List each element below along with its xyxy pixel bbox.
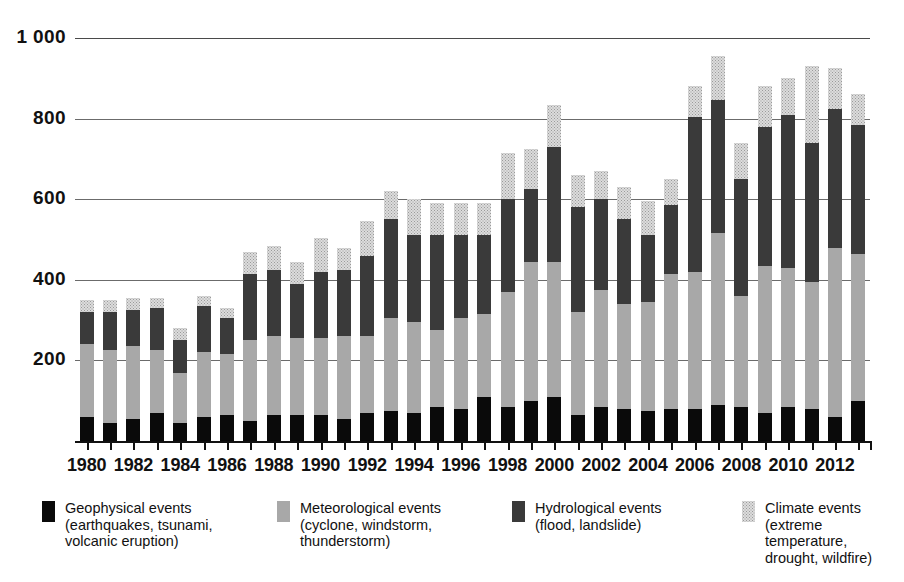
bar-1989: [290, 262, 304, 441]
segment-hydrological-1995: [430, 235, 444, 330]
bar-1988: [267, 246, 281, 441]
segment-geophysical-1988: [267, 415, 281, 441]
segment-climate-2006: [688, 86, 702, 116]
bar-1985: [197, 296, 211, 441]
segment-meteorological-1996: [454, 318, 468, 409]
x-tick-1992: [367, 441, 369, 450]
segment-geophysical-1981: [103, 423, 117, 441]
segment-geophysical-1997: [477, 397, 491, 441]
segment-meteorological-1983: [150, 350, 164, 412]
segment-meteorological-2001: [571, 312, 585, 415]
x-tick-2006: [695, 441, 697, 450]
segment-meteorological-2012: [828, 248, 842, 417]
stacked-bar-chart: 1 000800600400200 1980198219841986198819…: [0, 0, 904, 582]
x-tick-end: [870, 441, 872, 450]
bar-1992: [360, 221, 374, 441]
segment-meteorological-1986: [220, 354, 234, 414]
legend-item-climate[interactable]: Climate events (extreme temperature, dro…: [742, 500, 882, 566]
segment-climate-1988: [267, 246, 281, 270]
segment-geophysical-1990: [314, 415, 328, 441]
segment-geophysical-2002: [594, 407, 608, 441]
segment-meteorological-1992: [360, 336, 374, 413]
segment-climate-2005: [664, 179, 678, 205]
segment-geophysical-1989: [290, 415, 304, 441]
x-tick-1983: [157, 441, 159, 450]
legend-item-geophysical[interactable]: Geophysical events (earthquakes, tsunami…: [42, 500, 213, 550]
x-axis-line: [75, 441, 870, 443]
legend-item-meteorological[interactable]: Meteorological events (cyclone, windstor…: [277, 500, 441, 550]
segment-climate-2008: [734, 143, 748, 179]
x-tick-1980: [87, 441, 89, 450]
bar-2009: [758, 86, 772, 441]
segment-geophysical-2000: [547, 397, 561, 441]
x-tick-2011: [812, 441, 814, 450]
segment-hydrological-2012: [828, 109, 842, 248]
segment-geophysical-2004: [641, 411, 655, 441]
segment-climate-1997: [477, 203, 491, 235]
x-tick-1989: [297, 441, 299, 450]
segment-climate-1986: [220, 308, 234, 318]
segment-hydrological-2005: [664, 205, 678, 274]
segment-climate-1994: [407, 199, 421, 235]
segment-geophysical-1996: [454, 409, 468, 441]
bar-1995: [430, 203, 444, 441]
segment-meteorological-1981: [103, 350, 117, 423]
bar-1981: [103, 300, 117, 441]
light-dotted-swatch: [742, 501, 755, 522]
segment-geophysical-1982: [126, 419, 140, 441]
bar-1990: [314, 238, 328, 442]
segment-meteorological-1997: [477, 314, 491, 397]
segment-climate-1991: [337, 248, 351, 270]
segment-hydrological-1989: [290, 284, 304, 338]
segment-climate-2011: [805, 66, 819, 143]
segment-meteorological-2005: [664, 274, 678, 409]
segment-climate-1996: [454, 203, 468, 235]
bar-1994: [407, 199, 421, 441]
segment-geophysical-2005: [664, 409, 678, 441]
bar-1980: [80, 300, 94, 441]
x-tick-1987: [250, 441, 252, 450]
segment-hydrological-1983: [150, 308, 164, 350]
segment-climate-2010: [781, 78, 795, 114]
x-tick-1995: [437, 441, 439, 450]
segment-meteorological-1988: [267, 336, 281, 415]
bar-2008: [734, 143, 748, 441]
segment-meteorological-2004: [641, 302, 655, 411]
bar-1986: [220, 308, 234, 441]
segment-meteorological-2008: [734, 296, 748, 407]
segment-hydrological-1997: [477, 235, 491, 314]
segment-hydrological-1981: [103, 312, 117, 350]
segment-hydrological-2013: [851, 125, 865, 254]
black-swatch: [42, 501, 55, 522]
bar-2010: [781, 78, 795, 441]
segment-climate-2009: [758, 86, 772, 126]
segment-meteorological-1991: [337, 336, 351, 419]
segment-hydrological-1986: [220, 318, 234, 354]
x-tick-2003: [624, 441, 626, 450]
segment-hydrological-1998: [501, 199, 515, 292]
x-tick-1990: [321, 441, 323, 450]
segment-climate-1983: [150, 298, 164, 308]
bar-1996: [454, 203, 468, 441]
segment-climate-2003: [617, 187, 631, 219]
legend-item-hydrological[interactable]: Hydrological events (flood, landslide): [512, 500, 662, 533]
legend-label: Climate events (extreme temperature, dro…: [765, 500, 882, 566]
segment-hydrological-2009: [758, 127, 772, 266]
segment-meteorological-2002: [594, 290, 608, 407]
dark-gray-swatch: [512, 501, 525, 522]
segment-meteorological-1993: [384, 318, 398, 411]
segment-geophysical-1994: [407, 413, 421, 441]
segment-meteorological-1985: [197, 352, 211, 416]
x-tick-1993: [391, 441, 393, 450]
segment-meteorological-2003: [617, 304, 631, 409]
segment-geophysical-1993: [384, 411, 398, 441]
plot-area: [75, 38, 870, 441]
segment-geophysical-1987: [243, 421, 257, 441]
segment-geophysical-2006: [688, 409, 702, 441]
bar-2007: [711, 56, 725, 441]
x-tick-2002: [601, 441, 603, 450]
segment-hydrological-1987: [243, 274, 257, 340]
segment-geophysical-2001: [571, 415, 585, 441]
segment-meteorological-1989: [290, 338, 304, 415]
segment-geophysical-1995: [430, 407, 444, 441]
